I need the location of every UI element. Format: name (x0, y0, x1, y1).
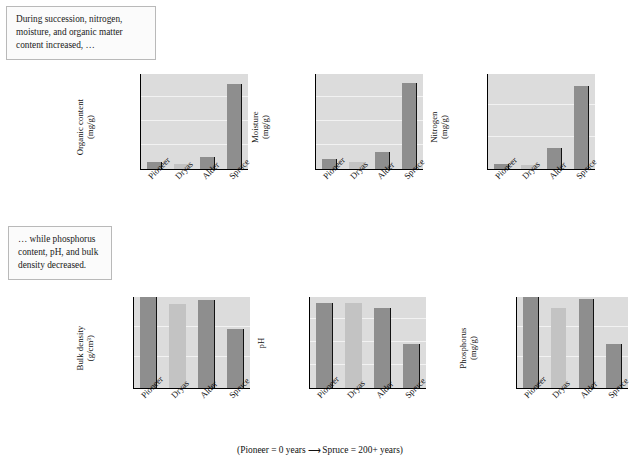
bar-slot (545, 297, 573, 388)
bar-nitrogen-spruce (574, 86, 589, 169)
bar-slot (600, 297, 628, 388)
y-tick-mark (309, 364, 310, 365)
y-tick-mark (309, 318, 310, 319)
y-tick-mark (140, 144, 141, 145)
y-tick-mark (487, 136, 488, 137)
plot-area-ph: 02468 (309, 297, 426, 389)
bar-moisture-spruce (402, 83, 417, 169)
y-axis-label-text: Moisture (250, 79, 260, 175)
figure-caption: (Pioneer = 0 years ⟶ Spruce = 200+ years… (0, 444, 640, 455)
bar-series (310, 297, 426, 388)
y-axis-label-organic-content: Organic content(mg/g) (75, 79, 95, 175)
bar-bulk-density-alder (198, 300, 214, 388)
bar-slot (542, 74, 569, 169)
bar-series (316, 74, 423, 169)
caption-prefix: (Pioneer = 0 years (237, 445, 306, 455)
bar-slot (195, 74, 222, 169)
y-tick-mark (516, 387, 517, 388)
y-axis-label-phosphorus: Phosphorus(mg/g) (458, 302, 478, 394)
y-tick-mark (487, 168, 488, 169)
bar-ph-pioneer (316, 303, 332, 388)
y-tick-mark (133, 387, 134, 388)
y-tick-mark (487, 104, 488, 105)
y-axis-label-ph: pH (256, 297, 266, 389)
y-axis-label-text: Bulk density (75, 302, 85, 394)
y-axis-label-text: Organic content (75, 79, 85, 175)
y-axis-unit-text: (mg/g) (260, 79, 270, 175)
bar-phosphorus-dryas (551, 308, 567, 388)
y-tick-mark (315, 96, 316, 97)
bar-slot (515, 74, 542, 169)
y-axis-unit-text: (g/cm³) (85, 302, 95, 394)
caption-suffix: Spruce = 200+ years) (322, 445, 403, 455)
plot-area-phosphorus: 00.20.40.6 (516, 297, 628, 389)
bar-ph-dryas (345, 303, 361, 388)
y-tick-mark (309, 341, 310, 342)
y-axis-label-text: Phosphorus (458, 302, 468, 394)
bar-slot (568, 74, 595, 169)
y-axis-label-text: Nitrogen (429, 79, 439, 175)
y-tick-mark (140, 96, 141, 97)
y-axis-unit-text: (mg/g) (439, 79, 449, 175)
y-axis-label-moisture: Moisture(mg/g) (250, 79, 270, 175)
note-top-text: During succession, nitrogen, moisture, a… (16, 14, 123, 50)
bar-slot (573, 297, 601, 388)
bar-series (141, 74, 248, 169)
bar-slot (343, 74, 370, 169)
bar-slot (168, 74, 195, 169)
bar-slot (370, 74, 397, 169)
y-tick-mark (315, 168, 316, 169)
bar-slot (221, 297, 250, 388)
bar-slot (396, 74, 423, 169)
bar-bulk-density-dryas (169, 304, 185, 388)
y-axis-unit-text: (mg/g) (85, 79, 95, 175)
note-bottom-text: … while phosphorus content, pH, and bulk… (18, 234, 98, 270)
y-axis-label-bulk-density: Bulk density(g/cm³) (75, 302, 95, 394)
plot-area-bulk-density: 00.61.21.8 (133, 297, 250, 389)
bar-slot (339, 297, 368, 388)
arrow-icon: ⟶ (308, 445, 320, 455)
y-tick-mark (315, 120, 316, 121)
y-tick-mark (516, 356, 517, 357)
y-tick-mark (133, 325, 134, 326)
y-tick-mark (309, 387, 310, 388)
y-tick-mark (133, 356, 134, 357)
annotation-note-top: During succession, nitrogen, moisture, a… (6, 6, 156, 60)
bar-slot (221, 74, 248, 169)
y-axis-unit-text: (mg/g) (468, 302, 478, 394)
bar-bulk-density-pioneer (140, 297, 156, 388)
y-tick-mark (516, 325, 517, 326)
annotation-note-bottom: … while phosphorus content, pH, and bulk… (8, 226, 112, 280)
y-axis-label-text: pH (256, 297, 266, 389)
y-axis-label-nitrogen: Nitrogen(mg/g) (429, 79, 449, 175)
y-tick-mark (140, 120, 141, 121)
bar-slot (163, 297, 192, 388)
bar-series (517, 297, 628, 388)
bar-slot (368, 297, 397, 388)
y-tick-mark (140, 168, 141, 169)
bar-slot (397, 297, 426, 388)
plot-area-nitrogen: 00.61.21.8 (487, 74, 595, 170)
plot-area-organic-content: 0255075100 (140, 74, 248, 170)
bar-series (488, 74, 595, 169)
bar-slot (192, 297, 221, 388)
bar-phosphorus-alder (579, 299, 595, 388)
y-tick-mark (315, 144, 316, 145)
bar-ph-alder (374, 308, 390, 389)
bar-phosphorus-pioneer (523, 297, 539, 388)
bar-series (134, 297, 250, 388)
bar-organic-content-spruce (227, 84, 242, 169)
plot-area-moisture: 0175350525700 (315, 74, 423, 170)
